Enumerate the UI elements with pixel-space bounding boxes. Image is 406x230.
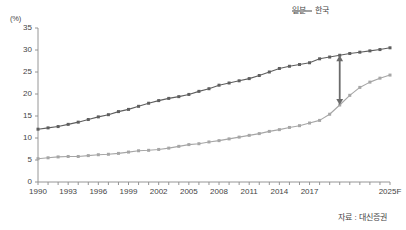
data-point bbox=[358, 86, 361, 89]
data-point bbox=[107, 153, 110, 156]
data-point bbox=[107, 113, 110, 116]
data-point bbox=[348, 52, 351, 55]
y-axis-tick-label: 10 bbox=[12, 134, 32, 142]
data-point bbox=[238, 136, 241, 139]
data-point bbox=[318, 119, 321, 122]
data-point bbox=[187, 93, 190, 96]
data-point bbox=[328, 56, 331, 59]
data-point bbox=[308, 122, 311, 125]
data-point bbox=[238, 79, 241, 82]
data-point bbox=[177, 145, 180, 148]
x-axis-tick-label: 2025F bbox=[370, 188, 406, 196]
data-point bbox=[127, 108, 130, 111]
y-axis-tick-label: 20 bbox=[12, 90, 32, 98]
data-point bbox=[57, 155, 60, 158]
data-point bbox=[117, 152, 120, 155]
data-point bbox=[77, 121, 80, 124]
y-axis-tick-label: 30 bbox=[12, 46, 32, 54]
data-point bbox=[308, 61, 311, 64]
gap-arrow-annotation bbox=[336, 55, 343, 105]
data-point bbox=[228, 82, 231, 85]
data-point bbox=[378, 77, 381, 80]
data-point bbox=[37, 128, 40, 131]
data-point bbox=[137, 149, 140, 152]
data-point bbox=[278, 67, 281, 70]
y-axis-tick-label: 5 bbox=[12, 156, 32, 164]
data-point bbox=[117, 110, 120, 113]
data-point bbox=[358, 51, 361, 54]
data-point bbox=[47, 156, 50, 159]
x-axis-tick-label: 2017 bbox=[290, 188, 330, 196]
data-point bbox=[389, 74, 392, 77]
data-point bbox=[87, 154, 90, 157]
data-point bbox=[298, 63, 301, 66]
data-point bbox=[167, 97, 170, 100]
data-point bbox=[167, 147, 170, 150]
data-point bbox=[87, 118, 90, 121]
data-point bbox=[157, 148, 160, 151]
data-point bbox=[147, 149, 150, 152]
data-point bbox=[288, 65, 291, 68]
data-point bbox=[248, 77, 251, 80]
data-point bbox=[127, 151, 130, 154]
data-point bbox=[197, 142, 200, 145]
data-point bbox=[298, 124, 301, 127]
data-point bbox=[187, 143, 190, 146]
data-point bbox=[268, 71, 271, 74]
data-point bbox=[218, 84, 221, 87]
data-point bbox=[389, 46, 392, 49]
data-point bbox=[207, 140, 210, 143]
data-point bbox=[157, 99, 160, 102]
data-point bbox=[67, 155, 70, 158]
data-point bbox=[258, 74, 261, 77]
data-point bbox=[368, 81, 371, 84]
data-point bbox=[77, 155, 80, 158]
data-point bbox=[57, 125, 60, 128]
source-note: 자료 : 대신증권 bbox=[338, 211, 387, 222]
y-axis-tick-label: 25 bbox=[12, 68, 32, 76]
data-point bbox=[67, 123, 70, 126]
data-point bbox=[207, 87, 210, 90]
data-point bbox=[197, 90, 200, 93]
data-point bbox=[278, 128, 281, 131]
data-point bbox=[177, 95, 180, 98]
data-point bbox=[37, 157, 40, 160]
data-point bbox=[258, 132, 261, 135]
data-point bbox=[368, 49, 371, 52]
y-axis-tick-label: 15 bbox=[12, 112, 32, 120]
data-point bbox=[248, 134, 251, 137]
data-point bbox=[218, 139, 221, 142]
data-point bbox=[47, 126, 50, 129]
data-point bbox=[268, 130, 271, 133]
data-point bbox=[288, 126, 291, 129]
series-line bbox=[38, 75, 390, 159]
data-point bbox=[328, 113, 331, 116]
data-point bbox=[228, 137, 231, 140]
data-point bbox=[137, 105, 140, 108]
data-point bbox=[147, 102, 150, 105]
data-point bbox=[97, 115, 100, 118]
data-point bbox=[318, 57, 321, 60]
data-point bbox=[378, 48, 381, 51]
data-point bbox=[348, 94, 351, 97]
y-axis-tick-label: 0 bbox=[12, 178, 32, 186]
data-point bbox=[97, 153, 100, 156]
y-axis-tick-label: 35 bbox=[12, 24, 32, 32]
